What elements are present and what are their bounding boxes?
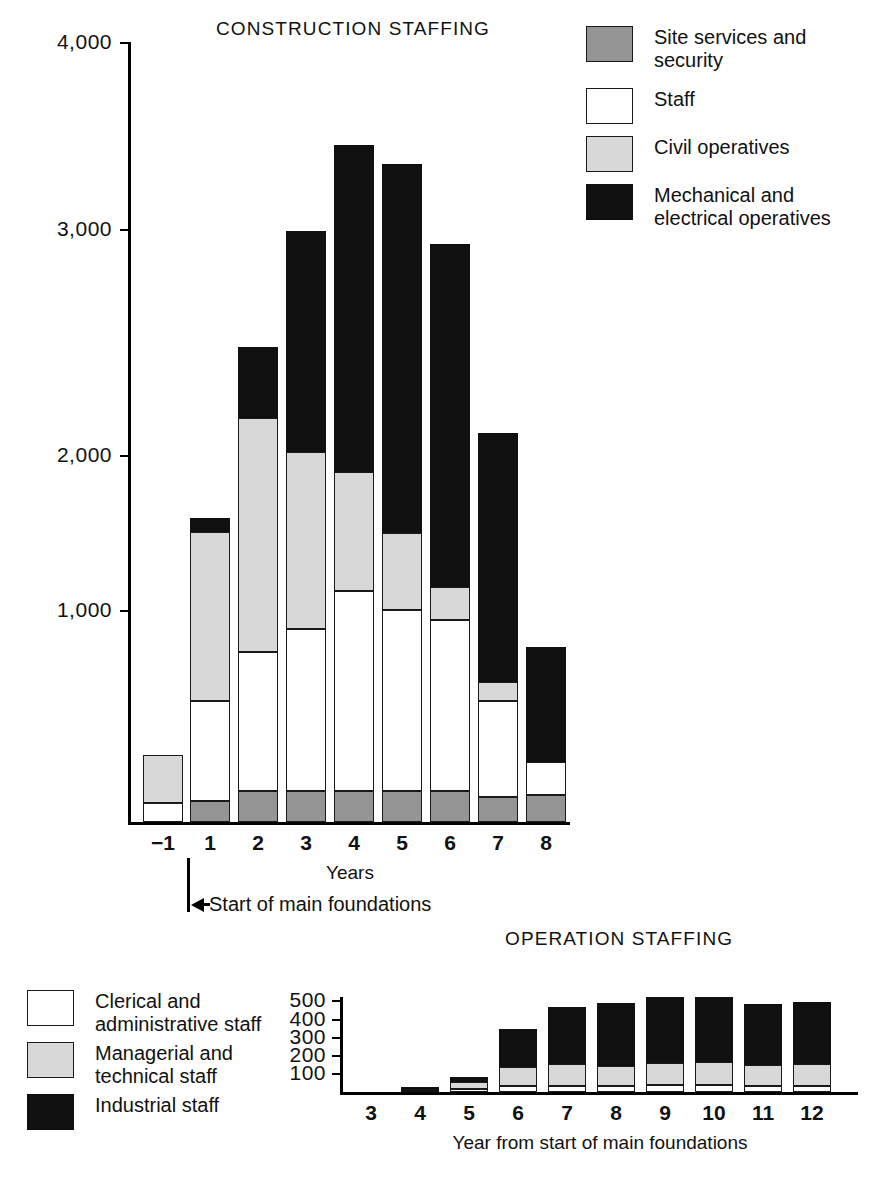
construction-bar--1 [143, 755, 183, 822]
segment-civil-operatives [334, 472, 374, 591]
construction-ytick-1000 [120, 610, 129, 612]
segment-clerical-admin [597, 1086, 635, 1092]
segment-clerical-admin [646, 1085, 684, 1092]
segment-clerical-admin [499, 1086, 537, 1092]
legend-label-site-services: Site services and security [654, 26, 806, 72]
segment-site-services [238, 791, 278, 822]
segment-industrial-staff [793, 1002, 831, 1064]
construction-xtick-6: 6 [430, 832, 470, 853]
segment-mech-elec [526, 647, 566, 762]
legend-swatch-civil-operatives-icon [586, 136, 633, 172]
operation-xtick-11: 11 [744, 1102, 782, 1123]
segment-staff [238, 652, 278, 791]
legend-label-civil-operatives: Civil operatives [654, 136, 790, 159]
operation-x-axis [340, 1092, 858, 1095]
operation-xtick-3: 3 [352, 1102, 390, 1123]
construction-xtick-8: 8 [526, 832, 566, 853]
legend-swatch-clerical-admin-icon [27, 990, 74, 1026]
segment-staff [190, 701, 230, 801]
operation-bar-4 [401, 1087, 439, 1092]
operation-bar-10 [695, 997, 733, 1092]
construction-bar-2 [238, 347, 278, 822]
segment-civil-operatives [478, 682, 518, 701]
legend-item-civil-operatives[interactable]: Civil operatives [586, 136, 790, 172]
legend-item-clerical-admin[interactable]: Clerical and administrative staff [27, 990, 261, 1036]
segment-industrial-staff [450, 1077, 488, 1082]
legend-item-managerial-tech[interactable]: Managerial and technical staff [27, 1042, 233, 1088]
construction-x-axis [128, 822, 570, 825]
construction-x-axis-label: Years [270, 862, 430, 884]
segment-clerical-admin [793, 1086, 831, 1092]
legend-item-industrial-staff[interactable]: Industrial staff [27, 1094, 219, 1130]
construction-bar-7 [478, 433, 518, 822]
operation-legend: Clerical and administrative staff Manage… [27, 990, 287, 1100]
legend-label-mech-elec: Mechanical and electrical operatives [654, 184, 831, 230]
segment-managerial-tech [450, 1082, 488, 1089]
start-of-foundations-line [187, 858, 190, 912]
operation-xtick-6: 6 [499, 1102, 537, 1123]
segment-civil-operatives [143, 755, 183, 803]
segment-clerical-admin [450, 1089, 488, 1092]
construction-ytick-2000 [120, 455, 129, 457]
segment-site-services [478, 797, 518, 822]
construction-ytick-4000 [120, 42, 129, 44]
operation-xtick-9: 9 [646, 1102, 684, 1123]
operation-chart-title: OPERATION STAFFING [505, 928, 733, 950]
segment-industrial-staff [499, 1029, 537, 1067]
construction-bar-8 [526, 647, 566, 822]
operation-xtick-12: 12 [793, 1102, 831, 1123]
construction-bar-6 [430, 244, 470, 822]
legend-label-staff: Staff [654, 88, 695, 111]
legend-swatch-managerial-tech-icon [27, 1042, 74, 1078]
legend-item-staff[interactable]: Staff [586, 88, 695, 124]
segment-civil-operatives [430, 587, 470, 620]
operation-ytick-100 [332, 1073, 340, 1075]
segment-staff [382, 610, 422, 791]
construction-xtick-2: 2 [238, 832, 278, 853]
segment-staff [526, 762, 566, 795]
construction-ytick-label-3000: 3,000 [20, 218, 112, 239]
segment-site-services [190, 801, 230, 822]
operation-xtick-4: 4 [401, 1102, 439, 1123]
segment-mech-elec [382, 164, 422, 533]
legend-item-site-services[interactable]: Site services and security [586, 26, 806, 72]
segment-mech-elec [286, 231, 326, 452]
construction-y-axis [128, 42, 131, 824]
segment-clerical-admin [548, 1086, 586, 1092]
construction-ytick-label-2000: 2,000 [20, 444, 112, 465]
operation-bar-5 [450, 1077, 488, 1092]
segment-industrial-staff [646, 997, 684, 1063]
legend-swatch-site-services-icon [586, 26, 633, 62]
construction-ytick-3000 [120, 229, 129, 231]
segment-managerial-tech [499, 1067, 537, 1086]
segment-civil-operatives [190, 532, 230, 701]
segment-managerial-tech [744, 1065, 782, 1086]
segment-industrial-staff [744, 1004, 782, 1065]
segment-staff [286, 629, 326, 791]
construction-bar-5 [382, 164, 422, 822]
segment-clerical-admin [695, 1085, 733, 1092]
segment-staff [143, 803, 183, 822]
segment-site-services [334, 791, 374, 822]
legend-item-mech-elec[interactable]: Mechanical and electrical operatives [586, 184, 831, 230]
segment-staff [478, 701, 518, 797]
cropped-caption-strip [0, 1174, 869, 1187]
construction-xtick-1: 1 [190, 832, 230, 853]
segment-civil-operatives [382, 533, 422, 610]
construction-xtick-7: 7 [478, 832, 518, 853]
operation-ytick-400 [332, 1019, 340, 1021]
segment-mech-elec [430, 244, 470, 587]
segment-managerial-tech [695, 1062, 733, 1085]
segment-managerial-tech [548, 1064, 586, 1086]
legend-swatch-mech-elec-icon [586, 184, 633, 220]
construction-bar-3 [286, 231, 326, 822]
construction-xtick-4: 4 [334, 832, 374, 853]
legend-swatch-industrial-staff-icon [27, 1094, 74, 1130]
legend-label-clerical-admin: Clerical and administrative staff [95, 990, 261, 1036]
operation-xtick-7: 7 [548, 1102, 586, 1123]
segment-clerical-admin [744, 1086, 782, 1092]
figure-canvas: CONSTRUCTION STAFFING 4,000 3,000 2,000 … [0, 0, 869, 1187]
construction-bar-1 [190, 518, 230, 822]
segment-civil-operatives [238, 418, 278, 652]
operation-bar-12 [793, 1002, 831, 1092]
